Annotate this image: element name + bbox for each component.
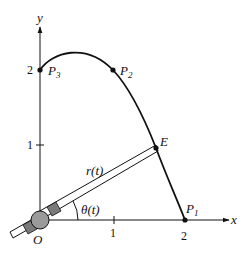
x-axis-label: x xyxy=(230,212,237,227)
label-e: E xyxy=(159,134,168,149)
clamp-upper xyxy=(47,202,61,216)
point-e xyxy=(153,145,158,150)
arm-length-label: r(t) xyxy=(86,163,103,178)
label-p3: P3 xyxy=(47,63,61,80)
joint-circle xyxy=(31,211,49,229)
point-p2 xyxy=(110,67,115,72)
label-p1: P1 xyxy=(185,201,198,218)
label-p2: P2 xyxy=(119,63,133,80)
y-tick-label-1: 1 xyxy=(27,138,33,152)
point-p3 xyxy=(37,67,42,72)
y-tick-label-2: 2 xyxy=(27,63,33,77)
robot-arm xyxy=(10,145,158,238)
angle-label: θ(t) xyxy=(81,202,100,217)
x-tick-label-1: 1 xyxy=(110,226,116,240)
angle-arc xyxy=(73,201,78,220)
y-axis-label: y xyxy=(35,10,43,25)
origin-label: O xyxy=(33,232,43,247)
robot-arm-path-diagram: y x O 1 2 1 2 P3 P2 P1 E r(t) θ(t) xyxy=(0,0,246,255)
x-tick-label-2: 2 xyxy=(181,229,187,243)
point-p1 xyxy=(182,217,187,222)
